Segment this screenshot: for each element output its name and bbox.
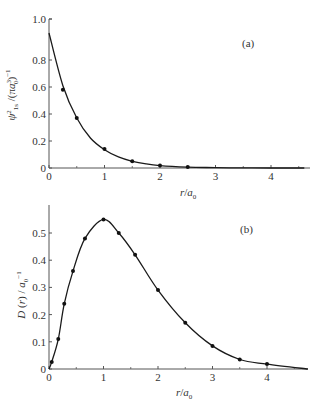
y-tick-label: 0.4 [32, 254, 46, 266]
x-tick-label: 1 [101, 371, 107, 383]
chart-panel-b: 0123400.10.20.30.40.5 (b) r/a0 D (r) / a… [15, 205, 308, 401]
y-tick-label: 0.6 [32, 81, 46, 93]
y-axis-title-b: D (r) / a0−1 [15, 271, 30, 320]
data-point [103, 147, 107, 151]
x-tick-label: 0 [46, 371, 52, 383]
y-tick-label: 0.3 [32, 281, 46, 293]
data-point [183, 321, 187, 325]
markers-a [61, 88, 190, 169]
figure: 0123400.20.40.60.81.0 (a) r/a0 ψ21s /(πa… [0, 0, 321, 408]
axes-b: 0123400.10.20.30.40.5 [32, 205, 308, 383]
data-point [62, 302, 66, 306]
data-point [133, 253, 137, 257]
data-point [238, 357, 242, 361]
y-tick-label: 0 [41, 363, 47, 375]
curve-a [49, 33, 304, 168]
x-tick-label: 3 [210, 371, 216, 383]
data-point [117, 231, 121, 235]
data-point [71, 269, 75, 273]
data-point [102, 217, 106, 221]
x-axis-title-b: r/a0 [176, 386, 193, 401]
data-point [265, 362, 269, 366]
axes-a: 0123400.20.40.60.81.0 [32, 13, 310, 182]
x-tick-label: 3 [213, 170, 219, 182]
data-point [83, 236, 87, 240]
data-point [50, 360, 54, 364]
curve-b [49, 219, 308, 369]
panel-label-a: (a) [242, 37, 255, 50]
y-tick-label: 0.2 [32, 309, 46, 321]
data-point [211, 344, 215, 348]
data-point [186, 165, 190, 169]
data-point [56, 337, 60, 341]
x-tick-label: 2 [155, 371, 161, 383]
x-tick-label: 4 [264, 371, 270, 383]
y-tick-label: 0.5 [32, 227, 46, 239]
data-point [61, 88, 65, 92]
y-tick-label: 0.8 [32, 54, 46, 66]
x-axis-title-a: r/a0 [180, 186, 197, 201]
y-tick-label: 0 [41, 162, 47, 174]
data-point [158, 164, 162, 168]
panel-label-b: (b) [240, 223, 253, 236]
x-tick-label: 1 [102, 170, 108, 182]
data-point [130, 159, 134, 163]
y-tick-label: 0.2 [32, 135, 46, 147]
y-axis-title-a: ψ21s /(πa30)−1 [4, 69, 20, 121]
chart-panel-a: 0123400.20.40.60.81.0 (a) r/a0 ψ21s /(πa… [4, 13, 310, 201]
data-point [156, 288, 160, 292]
data-point [75, 116, 79, 120]
x-tick-label: 0 [46, 170, 52, 182]
y-tick-label: 1.0 [32, 13, 46, 25]
x-tick-label: 2 [157, 170, 163, 182]
y-tick-label: 0.4 [32, 108, 46, 120]
x-tick-label: 4 [268, 170, 274, 182]
y-tick-label: 0.1 [32, 336, 46, 348]
